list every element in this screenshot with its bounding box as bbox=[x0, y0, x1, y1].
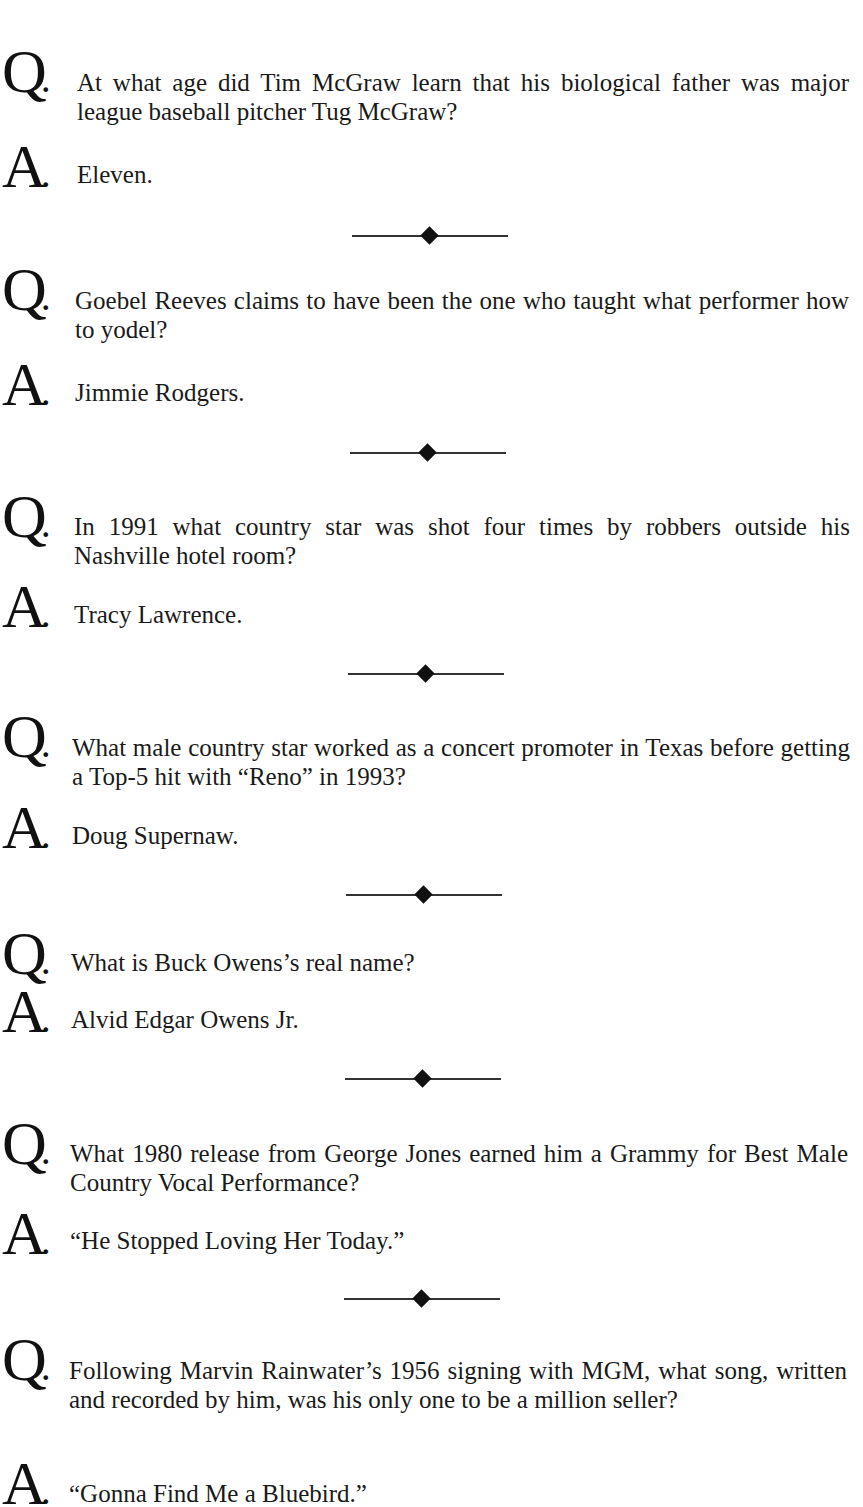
question-text: What is Buck Owens’s real name? bbox=[71, 948, 849, 977]
question-marker: Q. bbox=[2, 40, 49, 102]
section-divider bbox=[348, 664, 504, 684]
diamond-icon bbox=[413, 1069, 431, 1087]
diamond-icon bbox=[412, 1289, 430, 1307]
question-marker: Q. bbox=[2, 1328, 49, 1390]
question-text: Goebel Reeves claims to have been the on… bbox=[75, 286, 849, 344]
question-marker: Q. bbox=[2, 1112, 49, 1174]
question-marker: Q. bbox=[2, 705, 49, 767]
answer-text: Jimmie Rodgers. bbox=[75, 378, 849, 407]
answer-marker: A. bbox=[2, 796, 49, 858]
question-marker: Q. bbox=[2, 258, 49, 320]
diamond-icon bbox=[418, 443, 436, 461]
answer-text: Doug Supernaw. bbox=[72, 821, 850, 850]
answer-marker: A. bbox=[2, 1452, 49, 1507]
section-divider bbox=[352, 226, 508, 246]
answer-text: Eleven. bbox=[77, 160, 849, 189]
question-text: At what age did Tim McGraw learn that hi… bbox=[77, 68, 849, 126]
answer-marker: A. bbox=[2, 353, 49, 415]
section-divider bbox=[345, 1069, 501, 1089]
question-marker: Q. bbox=[2, 922, 49, 984]
answer-marker: A. bbox=[2, 135, 49, 197]
diamond-icon bbox=[414, 885, 432, 903]
question-text: What male country star worked as a conce… bbox=[72, 733, 850, 791]
answer-marker: A. bbox=[2, 980, 49, 1042]
answer-text: “He Stopped Loving Her Today.” bbox=[70, 1226, 848, 1255]
answer-marker: A. bbox=[2, 1202, 49, 1264]
question-text: What 1980 release from George Jones earn… bbox=[70, 1139, 848, 1197]
question-text: Following Marvin Rainwater’s 1956 signin… bbox=[69, 1356, 847, 1414]
answer-text: Alvid Edgar Owens Jr. bbox=[71, 1005, 849, 1034]
section-divider bbox=[350, 443, 506, 463]
question-marker: Q. bbox=[2, 485, 49, 547]
answer-text: “Gonna Find Me a Bluebird.” bbox=[69, 1479, 847, 1507]
diamond-icon bbox=[420, 226, 438, 244]
answer-text: Tracy Lawrence. bbox=[74, 600, 850, 629]
section-divider bbox=[344, 1289, 500, 1309]
question-text: In 1991 what country star was shot four … bbox=[74, 512, 850, 570]
diamond-icon bbox=[416, 664, 434, 682]
answer-marker: A. bbox=[2, 575, 49, 637]
section-divider bbox=[346, 885, 502, 905]
